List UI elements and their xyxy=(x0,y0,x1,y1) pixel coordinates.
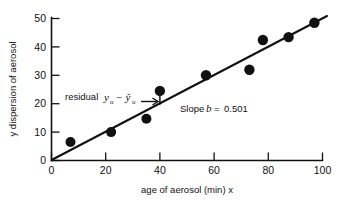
residual-math-y: y xyxy=(103,91,109,103)
residual-annotation: residual y u − ŷ u xyxy=(65,91,136,106)
residual-label: residual xyxy=(65,91,98,102)
x-tick-label-100: 100 xyxy=(314,164,332,176)
residual-math-minus: − xyxy=(116,91,123,103)
slope-value: 0.501 xyxy=(224,103,248,114)
x-axis-title: age of aerosol (min) x xyxy=(141,184,233,195)
data-point xyxy=(201,70,211,80)
residual-math-yhat-subscript: u xyxy=(132,98,136,106)
y-tick-label-50: 50 xyxy=(34,12,46,24)
x-tick-label-0: 0 xyxy=(49,164,55,176)
residual-math-yhat: ŷ xyxy=(125,91,131,103)
x-axis-tick-labels: 0 20 40 60 80 100 xyxy=(49,164,332,176)
data-point xyxy=(258,35,268,45)
residual-math-y-subscript: u xyxy=(110,98,114,106)
data-point xyxy=(66,137,76,147)
data-point xyxy=(244,65,254,75)
y-axis-tick-labels: 0 10 20 30 40 50 xyxy=(34,12,46,166)
data-points xyxy=(66,18,320,147)
x-tick-label-80: 80 xyxy=(262,164,274,176)
slope-annotation: Slope b = 0.501 xyxy=(180,102,248,114)
y-axis-ticks xyxy=(52,19,60,161)
y-axis-title: y dispersion of aerosol xyxy=(7,41,18,136)
x-axis-ticks xyxy=(52,153,323,161)
slope-label: Slope xyxy=(180,103,204,114)
slope-equals: = xyxy=(214,103,220,114)
data-point xyxy=(309,18,319,28)
x-tick-label-60: 60 xyxy=(208,164,220,176)
x-tick-label-40: 40 xyxy=(154,164,166,176)
y-tick-label-40: 40 xyxy=(34,41,46,53)
chart-canvas: 0 10 20 30 40 50 0 20 40 60 80 100 xyxy=(0,0,347,200)
y-tick-label-30: 30 xyxy=(34,69,46,81)
slope-symbol: b xyxy=(206,102,212,114)
data-point xyxy=(283,32,293,42)
y-tick-label-10: 10 xyxy=(34,126,46,138)
data-point xyxy=(106,127,116,137)
x-tick-label-20: 20 xyxy=(100,164,112,176)
y-tick-label-20: 20 xyxy=(34,97,46,109)
scatter-plot-figure: 0 10 20 30 40 50 0 20 40 60 80 100 xyxy=(0,0,347,200)
residual-arrow-icon xyxy=(141,98,158,105)
data-point xyxy=(141,114,151,124)
y-tick-label-0: 0 xyxy=(40,154,46,166)
